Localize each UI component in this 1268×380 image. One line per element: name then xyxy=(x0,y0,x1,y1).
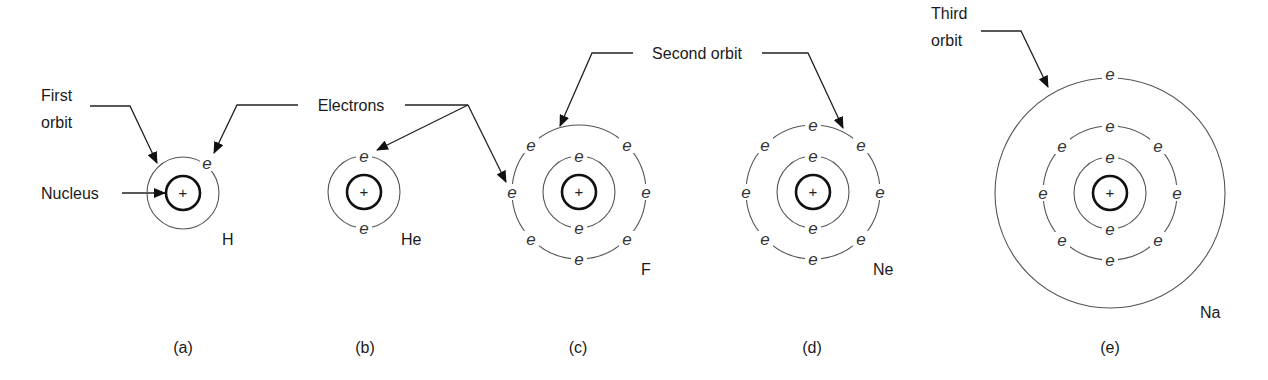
electron: e xyxy=(856,136,865,155)
electron: e xyxy=(856,230,865,249)
electron: e xyxy=(1105,65,1114,84)
electron: e xyxy=(574,219,583,238)
callout-third-orbit: Third orbit xyxy=(931,5,1048,87)
atom-helium: + e e He (b) xyxy=(328,147,422,356)
electron: e xyxy=(875,183,884,202)
electron: e xyxy=(808,250,817,269)
electron: e xyxy=(1105,117,1114,136)
element-symbol-f: F xyxy=(641,261,651,278)
first-orbit-arrow-icon xyxy=(90,106,157,163)
atom-sodium: + e e e e e e e e e e e Na (e) xyxy=(995,65,1225,356)
electron: e xyxy=(1105,148,1114,167)
atomic-structure-diagram: First orbit Nucleus Electrons Second orb… xyxy=(0,0,1268,380)
second-orbit-label: Second orbit xyxy=(652,45,742,62)
electron: e xyxy=(760,230,769,249)
electron: e xyxy=(1105,220,1114,239)
electron: e xyxy=(526,230,535,249)
electron: e xyxy=(1153,137,1162,156)
electrons-arrow-he-icon xyxy=(377,105,468,150)
electron: e xyxy=(1172,184,1181,203)
first-orbit-label-line1: First xyxy=(41,87,73,104)
nucleus-plus-icon: + xyxy=(809,183,818,200)
element-symbol-ne: Ne xyxy=(873,261,894,278)
electron: e xyxy=(507,183,516,202)
electron: e xyxy=(808,116,817,135)
caption-b: (b) xyxy=(355,339,375,356)
third-orbit-label-line2: orbit xyxy=(931,32,963,49)
nucleus-plus-icon: + xyxy=(360,183,369,200)
electron: e xyxy=(808,147,817,166)
third-orbit-arrow-icon xyxy=(981,31,1048,87)
electrons-label: Electrons xyxy=(318,97,385,114)
electrons-arrow-h-icon xyxy=(214,105,298,153)
electron: e xyxy=(359,147,368,166)
caption-d: (d) xyxy=(802,339,822,356)
callout-second-orbit: Second orbit xyxy=(560,45,843,128)
third-orbit-label-line1: Third xyxy=(931,5,967,22)
electron: e xyxy=(202,154,211,173)
electron: e xyxy=(622,230,631,249)
callout-nucleus: Nucleus xyxy=(41,185,165,202)
element-symbol-he: He xyxy=(401,231,422,248)
second-orbit-arrow-f-icon xyxy=(560,53,633,126)
atom-neon: + e e e e e e e e e e Ne (d) xyxy=(738,116,894,356)
callout-electrons: Electrons xyxy=(214,97,506,182)
electron: e xyxy=(359,219,368,238)
nucleus-plus-icon: + xyxy=(179,184,188,201)
callout-first-orbit: First orbit xyxy=(41,87,157,163)
electron: e xyxy=(526,136,535,155)
electron: e xyxy=(622,136,631,155)
electron: e xyxy=(741,183,750,202)
electron: e xyxy=(1153,231,1162,250)
electron: e xyxy=(760,136,769,155)
electron: e xyxy=(1038,184,1047,203)
electron: e xyxy=(808,219,817,238)
first-orbit-label-line2: orbit xyxy=(41,114,73,131)
nucleus-label: Nucleus xyxy=(41,185,99,202)
element-symbol-h: H xyxy=(222,231,234,248)
caption-a: (a) xyxy=(173,339,193,356)
electrons-arrow-f-icon xyxy=(468,105,506,182)
electron: e xyxy=(574,147,583,166)
nucleus-plus-icon: + xyxy=(1106,184,1115,201)
atom-fluorine: + e e e e e e e e e F (c) xyxy=(504,125,654,356)
electron: e xyxy=(1057,137,1066,156)
element-symbol-na: Na xyxy=(1200,304,1221,321)
atom-hydrogen: + e H (a) xyxy=(147,154,234,356)
caption-e: (e) xyxy=(1100,339,1120,356)
nucleus-plus-icon: + xyxy=(575,183,584,200)
caption-c: (c) xyxy=(569,339,588,356)
second-orbit-arrow-ne-icon xyxy=(762,53,843,128)
electron: e xyxy=(1057,231,1066,250)
electron: e xyxy=(1105,251,1114,270)
electron: e xyxy=(641,183,650,202)
electron: e xyxy=(574,250,583,269)
